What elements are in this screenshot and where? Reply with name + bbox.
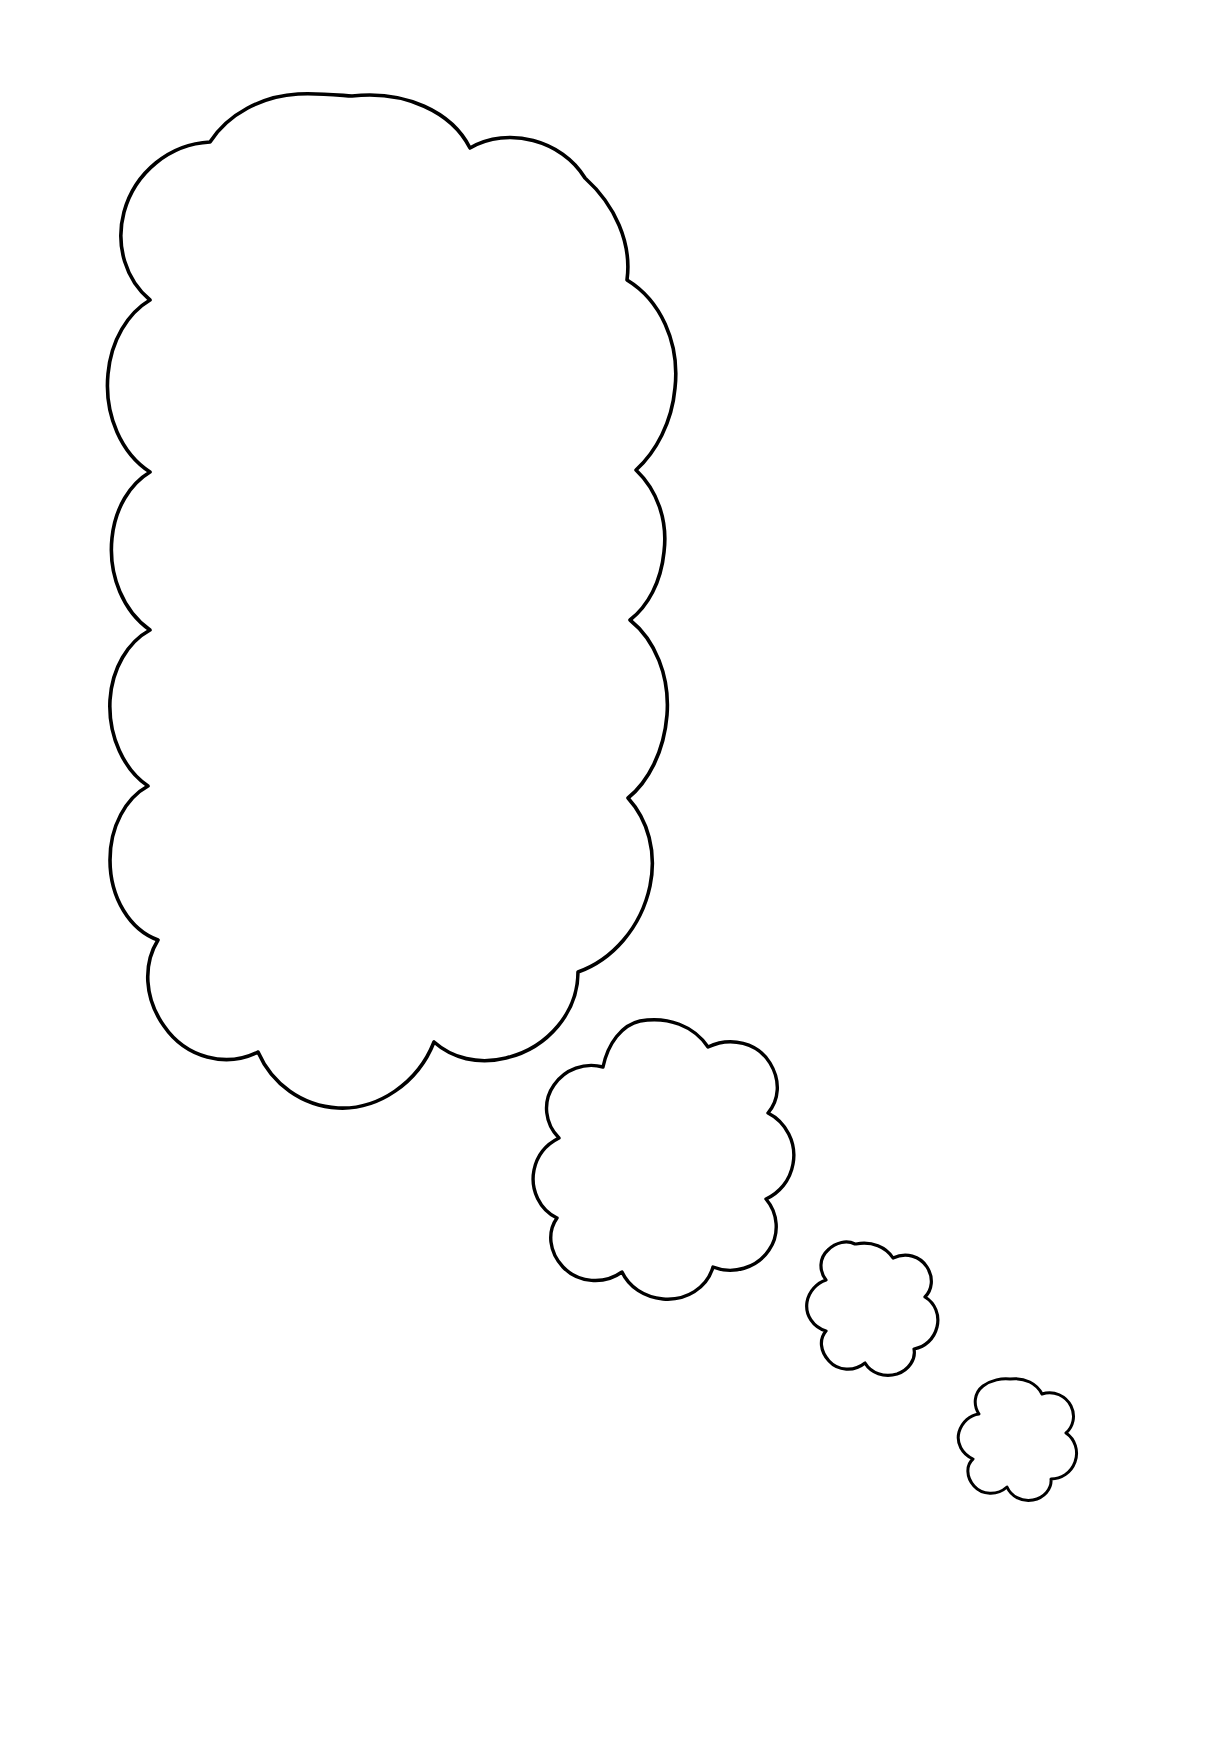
drawing-artboard xyxy=(0,0,1229,1738)
cloud-large-outline xyxy=(107,94,675,1108)
page-canvas: Blank scalloped thought bubble with thre… xyxy=(0,0,1229,1738)
